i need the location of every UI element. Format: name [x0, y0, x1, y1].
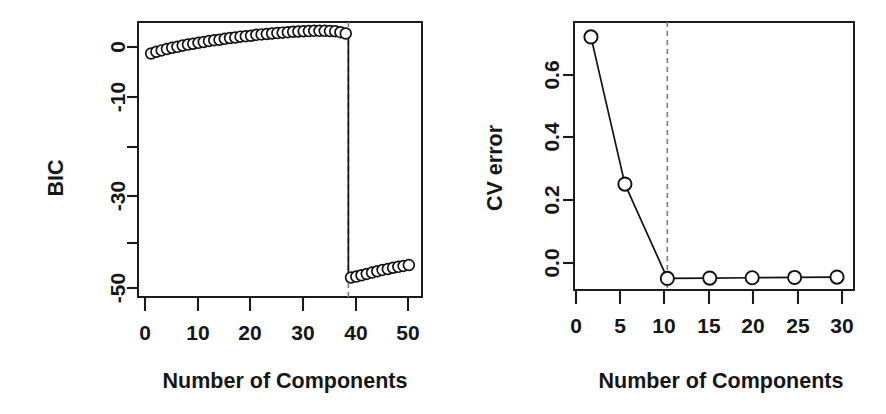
cv-xtick-label-5: 5	[614, 314, 626, 337]
bic-ytick-label-0: 0	[106, 41, 129, 53]
data-point	[584, 30, 597, 43]
bic-xtick-label-10: 10	[186, 321, 209, 344]
cv-x-axis-ticks	[576, 290, 842, 304]
cv-plot-box	[574, 22, 854, 290]
bic-xtick-label-0: 0	[139, 321, 151, 344]
cv-ytick-label-02: 0.2	[540, 185, 563, 214]
bic-ytick-label-minus10: -10	[106, 82, 129, 112]
bic-plot-svg: 0 -10 -30 -50 BIC 0 10 20 30 40 50	[0, 0, 443, 414]
cv-ytick-label-06: 0.6	[540, 60, 563, 89]
cv-x-axis-title: Number of Components	[599, 369, 844, 393]
bic-data-geometry	[146, 22, 415, 297]
data-point	[661, 272, 674, 285]
bic-xtick-label-40: 40	[344, 321, 367, 344]
cv-xtick-label-25: 25	[786, 314, 810, 337]
bic-x-axis-title: Number of Components	[163, 369, 408, 393]
cv-y-axis-title: CV error	[483, 124, 507, 211]
bic-ytick-label-minus50: -50	[106, 273, 129, 303]
cv-ytick-label-00: 0.0	[540, 248, 563, 277]
cv-xtick-label-20: 20	[741, 314, 764, 337]
data-point	[830, 271, 843, 284]
data-point	[746, 271, 759, 284]
figure-canvas: 0 -10 -30 -50 BIC 0 10 20 30 40 50	[0, 0, 886, 414]
series-markers-1	[346, 260, 415, 283]
bic-x-axis-ticks	[145, 297, 408, 311]
cv-error-plot-panel: 0.6 0.4 0.2 0.0 CV error 0 5 10 15 20 2	[443, 0, 886, 414]
bic-xtick-label-50: 50	[396, 321, 419, 344]
bic-y-axis-title: BIC	[44, 159, 68, 196]
cv-xtick-label-15: 15	[697, 314, 721, 337]
data-point	[403, 260, 414, 271]
series-path-0	[591, 37, 837, 279]
bic-xtick-label-20: 20	[238, 321, 261, 344]
series-markers-0	[584, 30, 843, 285]
cv-error-plot-svg: 0.6 0.4 0.2 0.0 CV error 0 5 10 15 20 2	[443, 0, 886, 414]
data-point	[618, 178, 631, 191]
bic-y-axis-ticks	[127, 47, 138, 288]
series-markers-0	[146, 25, 351, 58]
bic-plot-panel: 0 -10 -30 -50 BIC 0 10 20 30 40 50	[0, 0, 443, 414]
cv-ytick-label-04: 0.4	[540, 122, 563, 152]
data-point	[788, 271, 801, 284]
bic-ytick-label-minus30: -30	[106, 181, 129, 211]
cv-y-axis-ticks	[563, 75, 574, 263]
cv-xtick-label-10: 10	[652, 314, 675, 337]
bic-plot-box	[138, 22, 422, 297]
data-point	[340, 28, 351, 39]
cv-xtick-label-30: 30	[830, 314, 853, 337]
bic-xtick-label-30: 30	[291, 321, 314, 344]
data-point	[703, 271, 716, 284]
cv-error-data-geometry	[584, 22, 843, 290]
cv-xtick-label-0: 0	[570, 314, 582, 337]
